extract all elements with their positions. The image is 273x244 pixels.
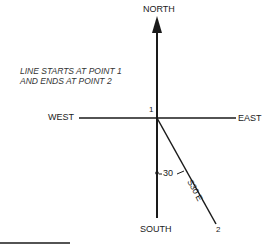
north-label: NORTH bbox=[143, 5, 175, 14]
note-line-2: AND ENDS AT POINT 2 bbox=[20, 76, 122, 86]
instruction-note: LINE STARTS AT POINT 1 AND ENDS AT POINT… bbox=[20, 66, 122, 86]
angle-arc-tick bbox=[177, 171, 184, 174]
angle-label: 30 bbox=[163, 169, 173, 178]
south-label: SOUTH bbox=[140, 225, 172, 234]
west-label: WEST bbox=[48, 113, 74, 122]
bearing-diagram bbox=[0, 0, 273, 244]
north-arrow-icon bbox=[152, 16, 162, 33]
point-2-label: 2 bbox=[216, 226, 220, 234]
angle-marker-dot bbox=[155, 171, 159, 175]
point-1-label: 1 bbox=[149, 106, 153, 114]
note-line-1: LINE STARTS AT POINT 1 bbox=[20, 66, 122, 76]
east-label: EAST bbox=[238, 114, 262, 123]
